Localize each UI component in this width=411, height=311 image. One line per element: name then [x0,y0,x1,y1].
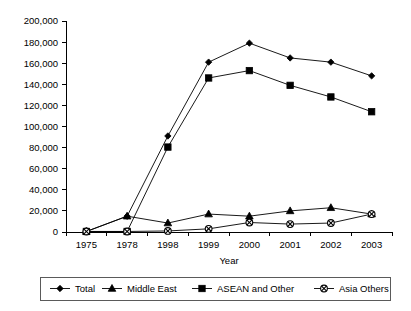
data-point-diamond [205,59,211,65]
x-axis: 19751978199819992000200120022003 [66,232,392,250]
data-point-diamond [368,73,374,79]
data-point-diamond [246,40,252,46]
y-axis-tick-label: 160,000 [24,58,58,69]
y-axis-tick-label: 180,000 [24,37,58,48]
data-point-square [368,109,374,115]
series-layer [83,40,376,235]
legend-label: ASEAN and Other [217,283,294,294]
data-point-circle-x [124,228,131,235]
data-point-circle-x [321,285,328,292]
data-point-diamond [287,55,293,61]
data-point-circle-x [205,225,212,232]
data-point-diamond [165,133,171,139]
x-axis-tick-label: 2000 [239,239,260,250]
y-axis: 020,00040,00060,00080,000100,000120,0001… [24,15,66,237]
data-point-triangle [327,204,335,211]
legend-label: Asia Others [339,283,389,294]
data-point-circle-x [368,211,375,218]
y-axis-tick-label: 40,000 [29,184,58,195]
chart-legend: TotalMiddle EastASEAN and OtherAsia Othe… [40,277,390,300]
data-point-square [287,82,293,88]
data-point-circle-x [165,228,172,235]
y-axis-tick-label: 140,000 [24,79,58,90]
x-axis-title: Year [219,255,238,266]
y-axis-tick-label: 200,000 [24,15,58,26]
data-point-square [328,94,334,100]
data-point-circle-x [328,220,335,227]
y-axis-tick-label: 120,000 [24,100,58,111]
y-axis-tick-label: 60,000 [29,163,58,174]
data-point-square [246,67,252,73]
y-axis-tick-label: 80,000 [29,142,58,153]
x-axis-tick-label: 1978 [117,239,138,250]
data-point-circle-x [246,219,253,226]
data-point-circle-x [83,228,90,235]
x-axis-tick-label: 1975 [76,239,97,250]
legend-label: Total [75,283,95,294]
x-axis-tick-label: 2001 [280,239,301,250]
x-axis-tick-label: 1998 [157,239,178,250]
chart-container: 020,00040,00060,00080,000100,000120,0001… [0,0,411,311]
y-axis-tick-label: 0 [53,226,58,237]
legend-label: Middle East [127,283,177,294]
y-axis-tick-label: 100,000 [24,121,58,132]
x-axis-tick-label: 2003 [361,239,382,250]
data-point-triangle [205,210,213,217]
data-point-square [205,75,211,81]
x-axis-tick-label: 2002 [320,239,341,250]
x-axis-tick-label: 1999 [198,239,219,250]
data-point-square [165,144,171,150]
data-point-diamond [328,59,334,65]
data-point-circle-x [287,221,294,228]
y-axis-tick-label: 20,000 [29,205,58,216]
line-chart: 020,00040,00060,00080,000100,000120,0001… [0,0,411,311]
data-point-square [199,285,205,291]
